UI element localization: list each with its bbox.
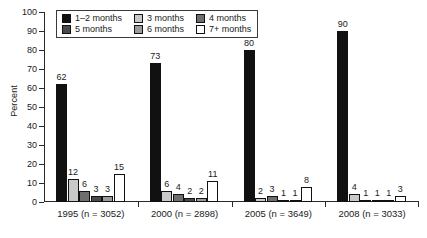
bar-slot: 15 — [114, 12, 125, 202]
bar-slot: 2 — [184, 12, 195, 202]
bar-value-label: 3 — [105, 185, 110, 194]
bar-value-label: 90 — [338, 20, 348, 29]
bar-slot: 8 — [301, 12, 312, 202]
bar — [102, 196, 113, 202]
bar-value-label: 1 — [363, 189, 368, 198]
legend-swatch-icon — [196, 14, 205, 23]
bar — [68, 179, 79, 202]
x-axis-separator — [232, 202, 233, 207]
bar-value-label: 3 — [93, 185, 98, 194]
bar-value-label: 1 — [281, 189, 286, 198]
bar — [395, 196, 406, 202]
bar-slot: 1 — [278, 12, 289, 202]
bar-value-label: 1 — [375, 189, 380, 198]
bar-slot: 3 — [395, 12, 406, 202]
bar-slot: 6 — [79, 12, 90, 202]
bar — [290, 200, 301, 202]
bar-value-label: 73 — [150, 52, 160, 61]
bar-value-label: 3 — [269, 185, 274, 194]
bar — [184, 198, 195, 202]
bar — [244, 50, 255, 202]
legend-item[interactable]: 3 months — [134, 14, 184, 23]
bar-value-label: 2 — [199, 187, 204, 196]
bar-group-bars: 9041113 — [337, 12, 406, 202]
chart-legend: 1–2 months3 months4 months5 months6 mont… — [56, 10, 258, 38]
bar — [383, 200, 394, 202]
bar — [349, 194, 360, 202]
bar — [56, 84, 67, 202]
plot-area: 0102030405060708090100 62126331573642211… — [44, 12, 419, 202]
bar — [150, 63, 161, 202]
x-axis-label: 2000 (n = 2898) — [138, 208, 232, 220]
legend-item[interactable]: 1–2 months — [62, 14, 122, 23]
y-tick-label: 100 — [22, 8, 37, 17]
bar-value-label: 2 — [258, 187, 263, 196]
legend-label: 7+ months — [209, 25, 251, 34]
bar — [91, 196, 102, 202]
bar — [267, 196, 278, 202]
legend-swatch-icon — [134, 14, 143, 23]
bar-chart: Percent 0102030405060708090100 621263315… — [0, 0, 427, 238]
bar — [79, 191, 90, 202]
bar-value-label: 2 — [187, 187, 192, 196]
bar — [114, 174, 125, 203]
bar-value-label: 6 — [164, 180, 169, 189]
legend-swatch-icon — [134, 25, 143, 34]
legend-swatch-icon — [62, 14, 71, 23]
bar-group: 73642211 — [150, 12, 219, 202]
legend-label: 1–2 months — [75, 14, 122, 23]
bar-value-label: 1 — [292, 189, 297, 198]
legend-swatch-icon — [196, 25, 205, 34]
x-axis-label: 2005 (n = 3649) — [232, 208, 326, 220]
y-tick-label: 40 — [27, 122, 37, 131]
bar — [173, 194, 184, 202]
y-tick-label: 80 — [27, 46, 37, 55]
bar — [360, 200, 371, 202]
legend-item[interactable]: 4 months — [196, 14, 251, 23]
bar-group-bars: 8023118 — [244, 12, 313, 202]
legend-label: 6 months — [147, 25, 184, 34]
legend-label: 5 months — [75, 25, 112, 34]
bar-slot: 2 — [255, 12, 266, 202]
bar-slot: 1 — [383, 12, 394, 202]
legend-item[interactable]: 6 months — [134, 25, 184, 34]
y-tick-label: 70 — [27, 65, 37, 74]
bar-value-label: 6 — [82, 180, 87, 189]
bar-slot: 73 — [150, 12, 161, 202]
bar-value-label: 15 — [114, 163, 124, 172]
y-tick-label: 50 — [27, 103, 37, 112]
x-axis-separator — [325, 202, 326, 207]
legend-item[interactable]: 5 months — [62, 25, 122, 34]
bar-value-label: 80 — [244, 39, 254, 48]
bar-slot: 3 — [102, 12, 113, 202]
x-axis-label: 1995 (n = 3052) — [44, 208, 138, 220]
x-axis-separator — [418, 202, 419, 207]
bar-groups: 6212633157364221180231189041113 — [44, 12, 419, 202]
x-axis-separator — [138, 202, 139, 207]
x-axis-labels: 1995 (n = 3052)2000 (n = 2898)2005 (n = … — [44, 208, 419, 228]
bar-slot: 1 — [372, 12, 383, 202]
y-axis-title: Percent — [9, 61, 19, 141]
y-tick-label: 90 — [27, 27, 37, 36]
bar-slot: 1 — [360, 12, 371, 202]
bar-slot: 3 — [267, 12, 278, 202]
bar — [161, 191, 172, 202]
bar-slot: 90 — [337, 12, 348, 202]
y-tick-mark — [39, 202, 44, 203]
bar-group-bars: 73642211 — [150, 12, 219, 202]
bar-slot: 3 — [91, 12, 102, 202]
legend-item[interactable]: 7+ months — [196, 25, 251, 34]
bar — [301, 187, 312, 202]
bar-value-label: 8 — [304, 176, 309, 185]
y-tick-label: 20 — [27, 160, 37, 169]
bar — [372, 200, 383, 202]
bar-slot: 4 — [349, 12, 360, 202]
bar-value-label: 1 — [386, 189, 391, 198]
x-axis-label: 2008 (n = 3033) — [325, 208, 419, 220]
bar-slot: 11 — [207, 12, 218, 202]
bar-slot: 80 — [244, 12, 255, 202]
bar-value-label: 62 — [56, 73, 66, 82]
legend-label: 3 months — [147, 14, 184, 23]
bar-group: 9041113 — [337, 12, 406, 202]
bar-value-label: 11 — [208, 170, 217, 179]
